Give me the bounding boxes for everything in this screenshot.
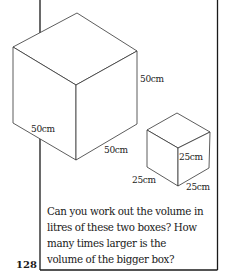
question-line: many times larger is the xyxy=(47,235,217,251)
small-box-drawing xyxy=(147,113,210,186)
big-box-height-label: 50cm xyxy=(140,74,164,84)
page-number: 128 xyxy=(16,259,37,270)
big-box-width-label: 50cm xyxy=(104,145,128,155)
big-box-depth-label: 50cm xyxy=(31,124,55,134)
question-line: volume of the bigger box? xyxy=(47,251,217,267)
question-text: Can you work out the volume in litres of… xyxy=(47,203,217,267)
small-box-width-label: 25cm xyxy=(186,182,210,192)
big-box-drawing xyxy=(13,13,137,160)
small-box-depth-label: 25cm xyxy=(132,175,156,185)
question-line: litres of these two boxes? How xyxy=(47,219,217,235)
small-box-height-label: 25cm xyxy=(179,152,203,162)
question-line: Can you work out the volume in xyxy=(47,203,217,219)
